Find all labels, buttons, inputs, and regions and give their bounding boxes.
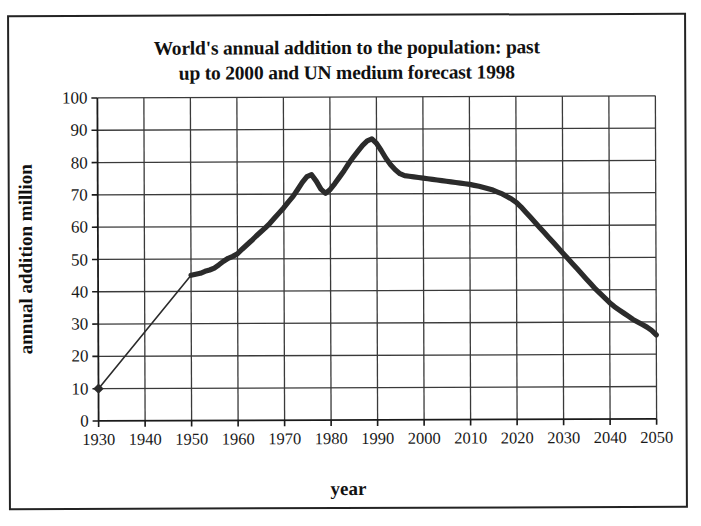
figure-frame: World's annual addition to the populatio… xyxy=(7,13,688,511)
plot-area: annual addition million year 01020304050… xyxy=(9,15,686,509)
chart-canvas xyxy=(9,15,690,513)
